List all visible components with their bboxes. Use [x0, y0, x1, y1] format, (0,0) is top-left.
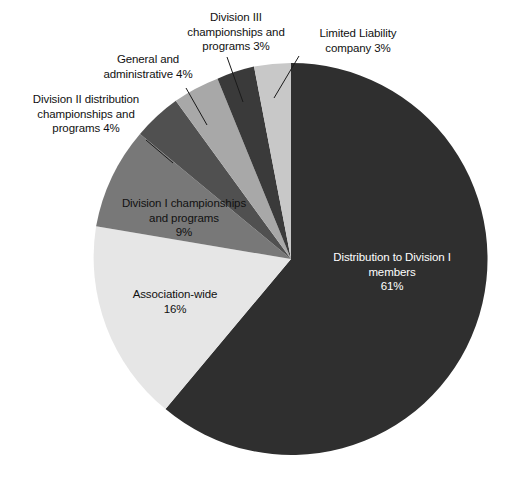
- pie-chart: Division II distribution championships a…: [0, 0, 512, 478]
- slice-label-division-ii-distribution-championships-and-programs: Division II distribution championships a…: [2, 92, 170, 136]
- slice-label-general-and-administrative: General and administrative 4%: [78, 52, 218, 81]
- slice-label-distribution-to-division-i-members: Distribution to Division I members 61%: [310, 250, 474, 294]
- slice-label-division-i-championships-and-programs: Division I championships and programs 9%: [104, 196, 264, 240]
- slice-label-association-wide: Association-wide 16%: [110, 287, 240, 316]
- slice-label-division-iii-championships-and-programs: Division III championships and programs …: [172, 10, 300, 54]
- slice-label-limited-liability-company: Limited Liability company 3%: [296, 26, 420, 55]
